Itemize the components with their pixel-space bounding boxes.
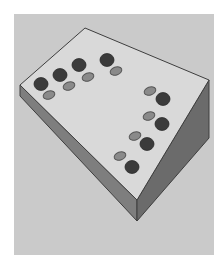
dark-disc xyxy=(156,93,170,106)
dark-disc xyxy=(72,59,86,72)
dark-disc xyxy=(100,54,114,67)
dark-disc xyxy=(140,138,154,151)
figure-frame xyxy=(0,0,224,263)
slab-illustration xyxy=(0,0,224,263)
dark-disc xyxy=(34,78,48,91)
dark-disc xyxy=(125,161,139,174)
dark-disc xyxy=(53,69,67,82)
dark-disc xyxy=(155,118,169,131)
